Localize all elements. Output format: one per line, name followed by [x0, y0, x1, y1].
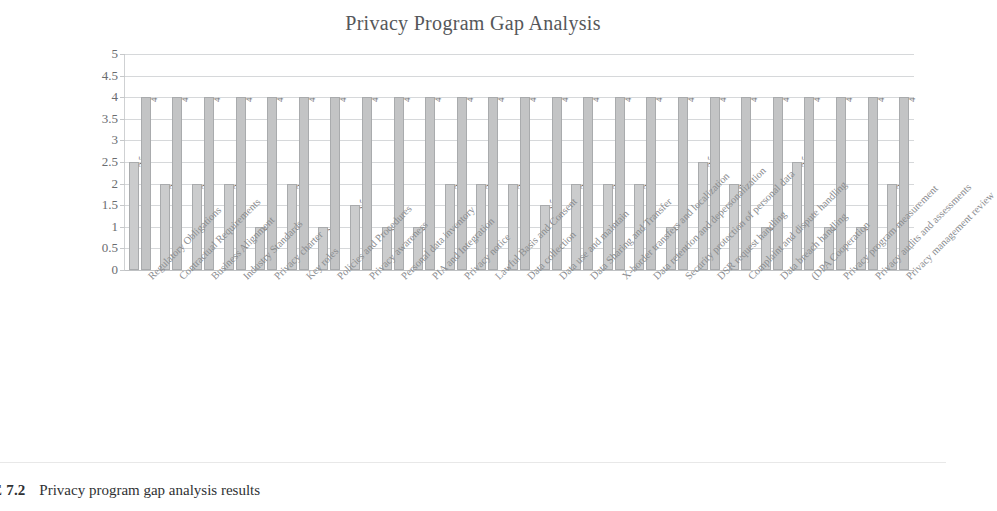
- x-category-label: (DPA Cooperation: [809, 274, 817, 282]
- bar-value-label: 4: [813, 98, 822, 103]
- y-tick-label: 2: [74, 176, 118, 192]
- bar-target[interactable]: 4: [141, 97, 151, 270]
- x-category-label: Complaint and dispute handling: [746, 274, 754, 282]
- bar-current[interactable]: 2.5: [129, 162, 139, 270]
- bar-value-label: 4: [687, 98, 696, 103]
- bar-value-label: 4: [371, 98, 380, 103]
- bar-value-label: 4: [245, 98, 254, 103]
- x-category-label: Security protection of personal data: [683, 274, 691, 282]
- caption-divider: [0, 462, 946, 463]
- x-axis-category-labels: Regulatory ObligationsContractual Requir…: [124, 274, 914, 464]
- bar-value-label: 4: [339, 98, 348, 103]
- x-category-label: Lawful Basis and Consent: [493, 274, 501, 282]
- x-category-label: Privacy management review: [904, 274, 912, 282]
- y-tick-label: 1.5: [74, 197, 118, 213]
- y-tick-mark: [120, 119, 125, 120]
- x-category-label: DSR request handling: [715, 274, 723, 282]
- bar-value-label: 4: [529, 98, 538, 103]
- bar-target[interactable]: 4: [330, 97, 340, 270]
- bar-value-label: 4: [181, 98, 190, 103]
- x-category-label: Privacy program measurement: [841, 274, 849, 282]
- bar-value-label: 4: [592, 98, 601, 103]
- figure-caption: URE 7.2 Privacy program gap analysis res…: [0, 482, 916, 499]
- bar-value-label: 4: [276, 98, 285, 103]
- x-category-label: Privacy notice: [462, 274, 470, 282]
- bar-group: 2.54: [129, 54, 151, 270]
- bar-value-label: 4: [782, 98, 791, 103]
- x-category-label: Contractual Requirements: [177, 274, 185, 282]
- bar-value-label: 4: [308, 98, 317, 103]
- y-tick-label: 1: [74, 219, 118, 235]
- x-category-label: Data collection: [525, 274, 533, 282]
- y-tick-mark: [120, 54, 125, 55]
- bar-value-label: 4: [150, 98, 159, 103]
- x-category-label: Data Sharing and Transfer: [588, 274, 596, 282]
- y-tick-mark: [120, 140, 125, 141]
- bar-value-label: 4: [908, 98, 917, 103]
- x-category-label: Business Alignment: [209, 274, 217, 282]
- y-tick-mark: [120, 227, 125, 228]
- bar-value-label: 4: [877, 98, 886, 103]
- figure-caption-clip: URE 7.2 Privacy program gap analysis res…: [0, 482, 970, 499]
- x-category-label: Data use and maintain: [557, 274, 565, 282]
- bar-value-label: 4: [561, 98, 570, 103]
- bar-value-label: 4: [213, 98, 222, 103]
- x-category-label: X-border transfers and localization: [620, 274, 628, 282]
- bar-value-label: 4: [403, 98, 412, 103]
- y-tick-label: 4.5: [74, 68, 118, 84]
- y-tick-label: 4: [74, 89, 118, 105]
- y-tick-mark: [120, 162, 125, 163]
- x-category-label: Privacy audits and assessments: [873, 274, 881, 282]
- y-tick-label: 3.5: [74, 111, 118, 127]
- bar-group: 24: [160, 54, 182, 270]
- x-category-label: Policies and Procedures: [335, 274, 343, 282]
- x-category-label: Data breach handling: [778, 274, 786, 282]
- x-category-label: Data retention and depersonalization: [651, 274, 659, 282]
- x-category-label: Privacy charter: [272, 274, 280, 282]
- x-category-label: Regulatory Obligations: [146, 274, 154, 282]
- bar-group: 1.54: [350, 54, 372, 270]
- y-tick-mark: [120, 97, 125, 98]
- y-tick-label: 5: [74, 46, 118, 62]
- x-category-label: PIA and Integration: [430, 274, 438, 282]
- y-tick-mark: [120, 270, 125, 271]
- figure-number: URE 7.2: [0, 482, 26, 498]
- x-category-label: Industry Standards: [241, 274, 249, 282]
- y-tick-mark: [120, 248, 125, 249]
- x-category-label: Personal data inventory: [399, 274, 407, 282]
- bar-value-label: 4: [466, 98, 475, 103]
- figure-caption-text: Privacy program gap analysis results: [39, 482, 260, 498]
- chart-title: Privacy Program Gap Analysis: [0, 12, 946, 35]
- y-tick-label: 0: [74, 262, 118, 278]
- bar-value-label: 4: [845, 98, 854, 103]
- bar-value-label: 4: [434, 98, 443, 103]
- x-category-label: Privacy awareness: [367, 274, 375, 282]
- y-tick-mark: [120, 205, 125, 206]
- bar-value-label: 4: [750, 98, 759, 103]
- y-tick-mark: [120, 184, 125, 185]
- bar-value-label: 4: [497, 98, 506, 103]
- bar-value-label: 4: [719, 98, 728, 103]
- bar-value-label: 4: [655, 98, 664, 103]
- bar-value-label: 4: [624, 98, 633, 103]
- y-tick-mark: [120, 76, 125, 77]
- y-tick-label: 3: [74, 132, 118, 148]
- x-category-label: Key roles: [304, 274, 312, 282]
- y-tick-label: 2.5: [74, 154, 118, 170]
- y-tick-label: 0.5: [74, 240, 118, 256]
